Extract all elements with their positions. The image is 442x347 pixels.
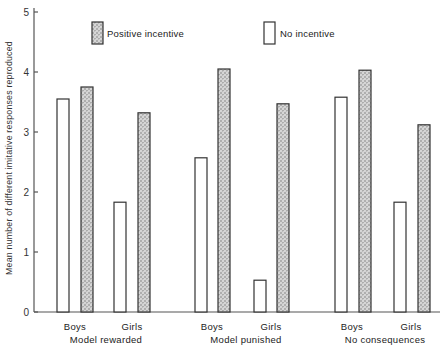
legend-label-none: No incentive <box>280 28 335 39</box>
y-tick-3: 3 <box>23 127 29 138</box>
bar-no-incentive-1 <box>114 202 126 312</box>
group-label-noconseq: No consequences <box>345 334 426 345</box>
label-girls-punished: Girls <box>260 321 281 332</box>
bar-no-incentive-4 <box>335 97 347 312</box>
y-tick-2: 2 <box>23 187 29 198</box>
label-boys-noconseq: Boys <box>341 321 363 332</box>
bar-positive-incentive-1 <box>138 113 150 312</box>
legend-label-positive: Positive incentive <box>107 28 184 39</box>
group-label-rewarded: Model rewarded <box>70 334 142 345</box>
y-tick-1: 1 <box>23 247 29 258</box>
bars <box>57 69 430 312</box>
bar-no-incentive-0 <box>57 99 69 312</box>
label-girls-rewarded: Girls <box>121 321 142 332</box>
bar-no-incentive-5 <box>394 202 406 312</box>
bar-no-incentive-3 <box>254 280 266 312</box>
legend: Positive incentive No incentive <box>92 22 335 44</box>
bar-positive-incentive-5 <box>418 125 430 312</box>
bar-positive-incentive-0 <box>81 87 93 312</box>
group-label-punished: Model punished <box>210 334 281 345</box>
y-ticks: 0 1 2 3 4 5 <box>23 7 38 318</box>
bar-chart: Mean number of different imitative respo… <box>0 0 442 347</box>
x-labels: Boys Girls Model rewarded Boys Girls Mod… <box>64 321 425 345</box>
label-girls-noconseq: Girls <box>400 321 421 332</box>
y-axis-label: Mean number of different imitative respo… <box>4 41 14 275</box>
legend-swatch-positive <box>92 22 103 44</box>
y-tick-0: 0 <box>23 307 29 318</box>
bar-positive-incentive-4 <box>359 70 371 312</box>
bar-positive-incentive-3 <box>277 104 289 312</box>
bar-no-incentive-2 <box>195 158 207 312</box>
label-boys-rewarded: Boys <box>64 321 86 332</box>
bar-positive-incentive-2 <box>218 69 230 312</box>
y-tick-4: 4 <box>23 67 29 78</box>
y-tick-5: 5 <box>23 7 29 18</box>
label-boys-punished: Boys <box>201 321 223 332</box>
legend-swatch-none <box>264 22 275 44</box>
